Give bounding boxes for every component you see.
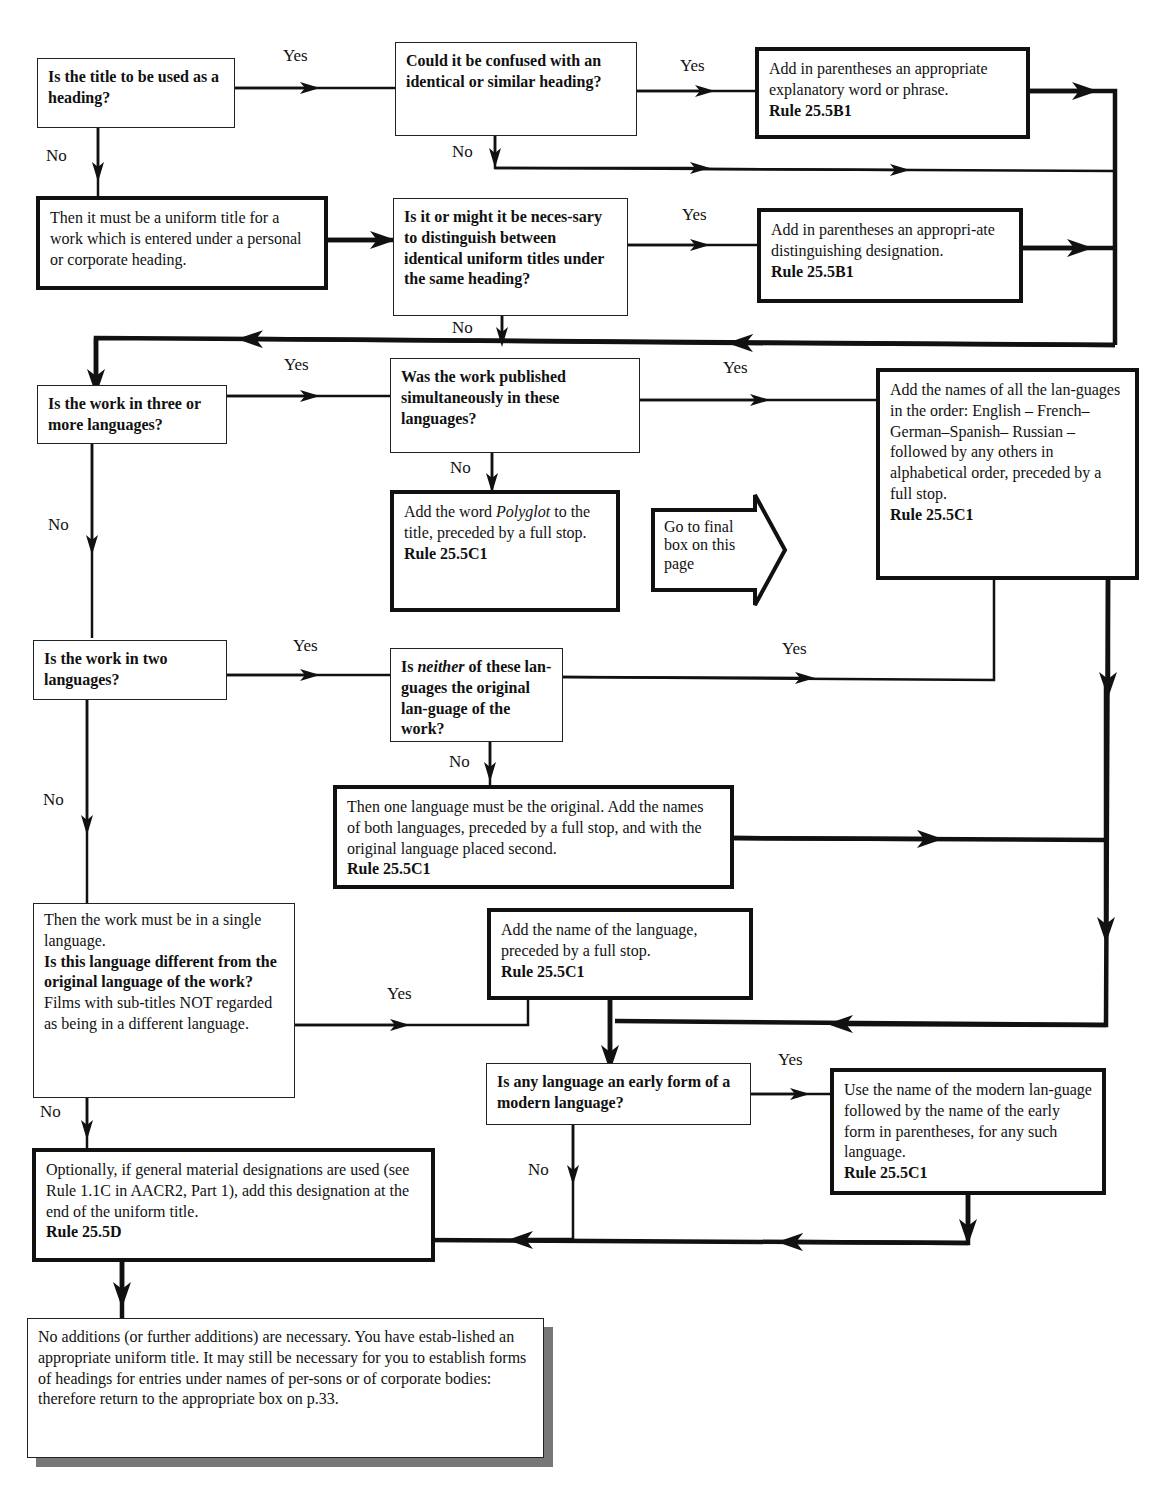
question-confused-with-heading: Could it be confused with an identical o…: [395, 42, 637, 136]
final-box-no-additions: No additions (or further additions) are …: [27, 1318, 544, 1458]
label-no: No: [40, 1102, 61, 1122]
question-three-languages: Is the work in three or more languages?: [37, 385, 227, 444]
question-two-languages: Is the work in two languages?: [33, 640, 227, 700]
action-modern-language-name: Use the name of the modern lan-guage fol…: [830, 1068, 1106, 1195]
action-distinguishing-designation: Add in parentheses an appropri-ate disti…: [757, 208, 1023, 303]
label-yes: Yes: [723, 358, 748, 378]
label-no: No: [43, 790, 64, 810]
action-text: Then one language must be the original. …: [347, 798, 703, 857]
action-all-language-names: Add the names of all the lan-guages in t…: [876, 368, 1139, 580]
rule-reference: Rule 25.5B1: [771, 262, 1009, 283]
action-name-of-language: Add the name of the language, preceded b…: [487, 908, 753, 1000]
action-explanatory-word: Add in parentheses an appropriate explan…: [755, 47, 1030, 139]
statement-uniform-title: Then it must be a uniform title for a wo…: [36, 196, 328, 290]
rule-reference: Rule 25.5C1: [844, 1163, 1092, 1184]
label-no: No: [452, 318, 473, 338]
action-general-material-designation: Optionally, if general material designat…: [32, 1148, 435, 1262]
question-title-as-heading: Is the title to be used as a heading?: [37, 58, 235, 128]
intro-text: Then the work must be in a single langua…: [44, 911, 261, 949]
question-neither-original: Is neither of these lan-guages the origi…: [390, 648, 563, 742]
action-text: Use the name of the modern lan-guage fol…: [844, 1081, 1092, 1160]
label-yes: Yes: [682, 205, 707, 225]
label-no: No: [46, 146, 67, 166]
question-distinguish-titles: Is it or might it be neces-sary to disti…: [393, 198, 628, 316]
rule-reference: Rule 25.5C1: [501, 962, 739, 983]
action-add-polyglot: Add the word Polyglot to the title, prec…: [390, 490, 620, 612]
rule-reference: Rule 25.5C1: [404, 544, 606, 565]
goto-final-box-label: Go to final box on this page: [664, 518, 754, 573]
label-yes: Yes: [782, 639, 807, 659]
question-early-form: Is any language an early form of a moder…: [486, 1063, 751, 1125]
rule-reference: Rule 25.5D: [46, 1222, 421, 1243]
note-text: Films with sub-titles NOT regarded as be…: [44, 993, 284, 1035]
rule-reference: Rule 25.5C1: [347, 859, 720, 880]
label-yes: Yes: [283, 46, 308, 66]
action-text: Add the name of the language, preceded b…: [501, 921, 697, 959]
rule-reference: Rule 25.5C1: [890, 505, 1125, 526]
label-no: No: [452, 142, 473, 162]
action-text: Add the names of all the lan-guages in t…: [890, 381, 1120, 502]
action-both-languages: Then one language must be the original. …: [333, 785, 734, 889]
label-yes: Yes: [387, 984, 412, 1004]
label-no: No: [528, 1160, 549, 1180]
question-text: Is this language different from the orig…: [44, 952, 284, 994]
label-no: No: [48, 515, 69, 535]
label-no: No: [449, 752, 470, 772]
label-yes: Yes: [284, 355, 309, 375]
action-text: Add the word Polyglot to the title, prec…: [404, 503, 590, 541]
action-text: Add in parentheses an appropri-ate disti…: [771, 221, 995, 259]
label-no: No: [450, 458, 471, 478]
rule-reference: Rule 25.5B1: [769, 101, 1016, 122]
label-yes: Yes: [680, 56, 705, 76]
action-text: Add in parentheses an appropriate explan…: [769, 60, 988, 98]
label-yes: Yes: [293, 636, 318, 656]
action-text: Optionally, if general material designat…: [46, 1161, 409, 1220]
question-published-simultaneously: Was the work published simultaneously in…: [390, 358, 640, 453]
question-single-language: Then the work must be in a single langua…: [33, 903, 295, 1098]
label-yes: Yes: [778, 1050, 803, 1070]
